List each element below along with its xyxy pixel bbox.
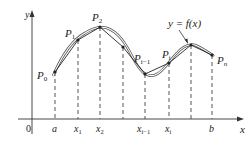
label-p2: P2 — [91, 11, 103, 25]
tick-label-b: b — [209, 123, 214, 134]
label-pn: Pn — [216, 54, 228, 68]
label-p0: P0 — [36, 69, 48, 83]
curve-label: y = f(x) — [167, 17, 201, 30]
origin-label: 0 — [26, 123, 31, 134]
polygon-approximation-diagram: y = f(x) P0 P1 P2 Pi−1 Pi Pn y x 0 a x1 … — [0, 0, 252, 142]
label-pi-minus-1: Pi−1 — [133, 52, 151, 66]
tick-label-x2: x2 — [95, 123, 104, 135]
tick-label-xi-minus-1: xi−1 — [136, 123, 150, 135]
label-pi: Pi — [161, 48, 171, 62]
y-axis-arrow-icon — [30, 10, 35, 17]
x-axis-arrow-icon — [237, 117, 244, 122]
tick-label-x1: x1 — [73, 123, 82, 135]
tick-label-xi: xi — [164, 123, 171, 135]
approximating-polygon — [55, 27, 212, 74]
polygon-vertices — [53, 25, 213, 75]
x-axis-label: x — [239, 123, 245, 135]
axes — [18, 10, 244, 134]
tick-label-a: a — [52, 123, 57, 134]
label-p1: P1 — [64, 27, 76, 41]
y-axis-label: y — [24, 9, 30, 20]
